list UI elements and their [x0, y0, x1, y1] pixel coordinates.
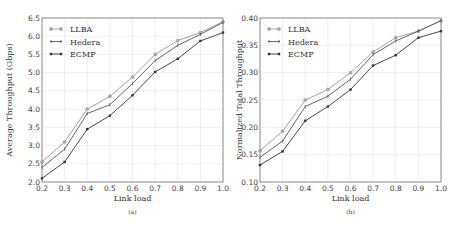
x-tick-label: 1.0	[435, 184, 447, 193]
chart-b-normalized-throughput: 0.20.30.40.50.60.70.80.91.00.100.150.200…	[231, 0, 462, 228]
x-tick-label: 0.4	[299, 184, 311, 193]
x-tick-label: 0.9	[194, 184, 206, 193]
y-tick-label: 4.5	[28, 86, 40, 95]
chart-a-svg: 0.20.30.40.50.60.70.80.91.02.02.53.03.54…	[0, 0, 231, 228]
y-tick-label: 0.10	[241, 178, 258, 187]
y-tick-label: 3.0	[28, 141, 40, 150]
x-axis-label: Link load	[114, 194, 152, 203]
x-tick-labels: 0.20.30.40.50.60.70.80.91.0	[254, 184, 447, 193]
y-tick-label: 5.5	[28, 50, 40, 59]
legend-item-hedera: Hedera	[50, 38, 100, 47]
y-tick-label: 2.5	[28, 159, 40, 168]
figure-caption: (b)	[346, 208, 355, 215]
x-tick-label: 0.7	[367, 184, 379, 193]
y-tick-label: 6.0	[28, 32, 40, 41]
y-tick-labels: 2.02.53.03.54.04.55.05.56.06.5	[28, 14, 40, 187]
legend-label: ECMP	[288, 50, 314, 59]
x-tick-label: 0.8	[390, 184, 402, 193]
legend: LLBAHederaECMP	[268, 25, 319, 59]
y-axis-label: Normalized Total Throughput	[235, 39, 244, 160]
figure-caption: (a)	[128, 208, 136, 215]
x-tick-label: 0.6	[127, 184, 139, 193]
x-tick-label: 0.9	[412, 184, 424, 193]
legend-item-llba: LLBA	[50, 25, 93, 34]
x-tick-label: 0.4	[81, 184, 93, 193]
y-tick-label: 2.0	[28, 178, 40, 187]
legend-label: Hedera	[70, 38, 100, 47]
x-tick-labels: 0.20.30.40.50.60.70.80.91.0	[36, 184, 229, 193]
y-tick-label: 6.5	[28, 14, 40, 23]
legend-label: LLBA	[288, 25, 311, 34]
x-tick-label: 0.3	[277, 184, 289, 193]
legend-label: ECMP	[70, 50, 96, 59]
y-tick-label: 4.0	[28, 105, 40, 114]
x-axis-label: Link load	[332, 194, 370, 203]
legend: LLBAHederaECMP	[50, 25, 101, 59]
y-axis-label: Average Throughput (Gbps)	[5, 43, 14, 157]
legend-label: LLBA	[70, 25, 93, 34]
x-tick-label: 0.6	[345, 184, 357, 193]
y-tick-label: 5.0	[28, 68, 40, 77]
x-tick-label: 1.0	[217, 184, 229, 193]
y-tick-label: 3.5	[28, 123, 40, 132]
y-tick-label: 0.40	[241, 14, 258, 23]
x-tick-label: 0.7	[149, 184, 161, 193]
legend-label: Hedera	[288, 38, 318, 47]
chart-a-average-throughput: 0.20.30.40.50.60.70.80.91.02.02.53.03.54…	[0, 0, 231, 228]
legend-item-llba: LLBA	[268, 25, 311, 34]
x-tick-label: 0.5	[104, 184, 116, 193]
chart-b-svg: 0.20.30.40.50.60.70.80.91.00.100.150.200…	[231, 0, 462, 228]
x-tick-label: 0.5	[322, 184, 334, 193]
x-tick-label: 0.3	[59, 184, 71, 193]
legend-item-ecmp: ECMP	[268, 50, 314, 59]
x-tick-label: 0.8	[172, 184, 184, 193]
